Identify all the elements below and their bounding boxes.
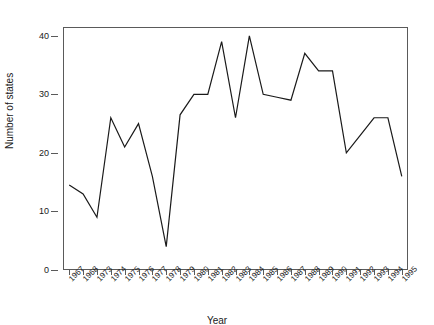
y-tick-label: 20: [39, 148, 49, 158]
line-chart-figure: Number of states 010203040 Year 19671968…: [0, 0, 434, 325]
y-axis-title: Number of states: [4, 73, 15, 149]
y-tick-mark: [51, 36, 58, 37]
y-tick-mark: [51, 211, 58, 212]
plot-area: [63, 27, 408, 270]
series-line: [63, 27, 408, 270]
y-tick-label: 10: [39, 206, 49, 216]
y-tick-label: 30: [39, 89, 49, 99]
series-polyline: [69, 36, 402, 247]
x-axis: Year 19671968197319741975197619771978197…: [0, 270, 434, 325]
y-tick-mark: [51, 153, 58, 154]
x-axis-title: Year: [0, 315, 434, 325]
y-tick-label: 40: [39, 31, 49, 41]
y-tick-mark: [51, 94, 58, 95]
